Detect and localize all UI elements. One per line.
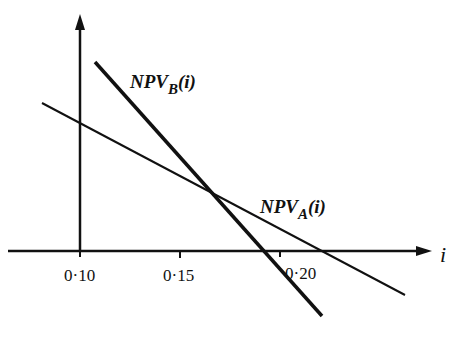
series-npv-b-line: [95, 62, 322, 316]
chart-svg: 0·10 0·15 0·20 i NPVB(i) NPVA(i): [0, 0, 457, 339]
chart-figure: 0·10 0·15 0·20 i NPVB(i) NPVA(i): [0, 0, 457, 339]
series-npv-b-label: NPVB(i): [129, 71, 196, 97]
x-axis: [8, 246, 432, 258]
y-axis: [75, 14, 85, 252]
x-axis-label: i: [440, 242, 446, 267]
series-npv-a-label: NPVA(i): [259, 196, 326, 222]
series-npv-a-line: [42, 103, 405, 295]
x-axis-arrow-icon: [416, 246, 432, 256]
tick-label-0-15: 0·15: [163, 266, 194, 285]
tick-label-0-10: 0·10: [64, 266, 95, 285]
y-axis-arrow-icon: [75, 14, 85, 30]
